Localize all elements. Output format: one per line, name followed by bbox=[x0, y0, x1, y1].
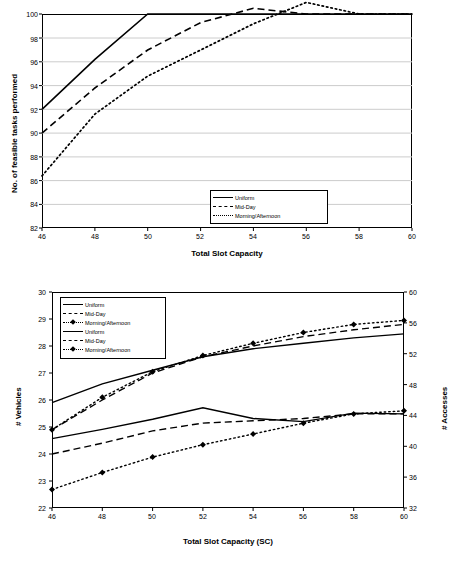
legend-line-solid-icon bbox=[63, 327, 83, 336]
legend-label: Uniform bbox=[233, 195, 254, 201]
legend-label: Mid-Day bbox=[83, 338, 105, 344]
legend-label: Morning/Afternoon bbox=[233, 213, 280, 219]
legend-item: Uniform bbox=[61, 327, 165, 336]
legend-line-dotted-icon bbox=[63, 318, 83, 327]
series-line-morningafternoon-top bbox=[42, 2, 412, 176]
legend-label: Uniform bbox=[83, 302, 104, 308]
legend-item: Morning/Afternoon bbox=[61, 318, 165, 327]
chart-vehicles-accesses: 22 23 24 25 26 27 28 29 30 32 36 40 44 4… bbox=[0, 278, 452, 569]
legend-line-dotted-icon bbox=[63, 345, 83, 354]
figure-page: 82 84 86 88 90 92 94 96 98 100 46 48 50 … bbox=[0, 0, 452, 569]
legend-label: Uniform bbox=[83, 329, 104, 335]
legend-label: Mid-Day bbox=[233, 204, 255, 210]
legend-bottom: Uniform Mid-Day Morning/Afternoon Unifor… bbox=[60, 297, 166, 359]
legend-line-solid-icon bbox=[63, 300, 83, 309]
legend-label: Morning/Afternoon bbox=[83, 320, 130, 326]
top-chart-svg bbox=[0, 0, 452, 278]
legend-item: Mid-Day bbox=[61, 336, 165, 345]
legend-line-dashed-icon bbox=[213, 202, 233, 211]
legend-label: Morning/Afternoon bbox=[83, 347, 130, 353]
legend-item: Uniform bbox=[61, 300, 165, 309]
legend-item: Morning/Afternoon bbox=[211, 211, 327, 220]
series-line-midday-accesses bbox=[52, 414, 404, 454]
legend-label: Mid-Day bbox=[83, 311, 105, 317]
legend-item: Morning/Afternoon bbox=[61, 345, 165, 354]
legend-top: Uniform Mid-Day Morning/Afternoon bbox=[210, 190, 328, 224]
legend-line-solid-icon bbox=[213, 193, 233, 202]
legend-item: Mid-Day bbox=[211, 202, 327, 211]
series-line-midday-top bbox=[42, 8, 412, 133]
legend-line-dotted-icon bbox=[213, 211, 233, 220]
legend-item: Uniform bbox=[211, 193, 327, 202]
series-line-uniform-accesses bbox=[52, 408, 404, 439]
legend-item: Mid-Day bbox=[61, 309, 165, 318]
legend-line-dashed-icon bbox=[63, 336, 83, 345]
legend-line-dashed-icon bbox=[63, 309, 83, 318]
series-markers-morningafternoon-accesses bbox=[49, 408, 407, 493]
gridlines-top bbox=[42, 38, 412, 204]
chart-feasible-tasks: 82 84 86 88 90 92 94 96 98 100 46 48 50 … bbox=[0, 0, 452, 278]
